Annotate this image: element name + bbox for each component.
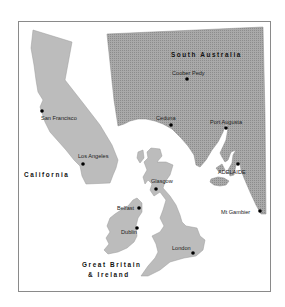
city-marker-glasgow (154, 187, 158, 191)
city-marker-port-augusta (224, 126, 228, 130)
city-marker-mt-gambier (258, 209, 262, 213)
city-marker-ceduna (169, 123, 173, 127)
city-label-coober-pedy: Coober Pedy (172, 70, 205, 76)
city-label-san-francisco: San Francisco (41, 115, 77, 121)
city-label-belfast: Belfast (117, 205, 135, 211)
region-label-south-australia: South Australia (171, 51, 242, 58)
region-label-gb-line2: & Ireland (88, 271, 130, 278)
city-label-glasgow: Glasgow (151, 178, 174, 184)
map-canvas: South Australia California Great Britain… (0, 0, 285, 307)
city-marker-san-francisco (40, 109, 44, 113)
region-label-gb-line1: Great Britain (82, 261, 142, 268)
city-label-ceduna: Ceduna (156, 115, 176, 121)
city-label-mt-gambier: Mt Gambier (221, 209, 250, 215)
city-label-dublin: Dublin (121, 229, 137, 235)
city-marker-belfast (137, 206, 141, 210)
region-label-california: California (24, 171, 69, 178)
city-marker-coober-pedy (185, 77, 189, 81)
city-label-adelaide: ADELAIDE (218, 169, 246, 175)
city-marker-los-angeles (81, 162, 85, 166)
city-marker-adelaide (236, 162, 240, 166)
city-label-los-angeles: Los Angeles (78, 153, 109, 159)
city-label-port-augusta: Port Augusta (210, 119, 243, 125)
city-label-london: London (172, 245, 191, 251)
city-marker-london (191, 251, 195, 255)
